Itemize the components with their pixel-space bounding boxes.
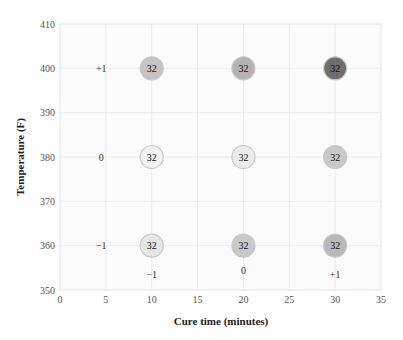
y-tick-label: 380 [40,152,55,163]
y-tick-label: 370 [40,196,55,207]
point-value-label: 32 [238,240,248,251]
x-tick-label: 0 [58,294,63,305]
point-value-label: 32 [147,63,157,74]
data-point: 32 [232,146,255,169]
x-tick-label: 30 [330,294,340,305]
y-axis-label: Temperature (F) [14,118,27,196]
y-tick-label: 390 [40,107,55,118]
level-code-label: 0 [99,152,104,163]
x-tick-label: 5 [103,294,108,305]
data-point: 32 [140,234,163,257]
point-value-label: 32 [147,152,157,163]
x-tick-label: 10 [147,294,157,305]
data-point: 32 [232,57,255,80]
x-tick-label: 15 [193,294,203,305]
point-value-label: 32 [147,240,157,251]
x-tick-label: 20 [238,294,248,305]
data-point: 32 [324,146,347,169]
x-tick-label: 35 [376,294,386,305]
data-point: 32 [324,234,347,257]
data-point: 32 [232,234,255,257]
level-code-label: −1 [146,269,157,280]
data-point: 32 [140,57,163,80]
x-tick-label: 25 [284,294,294,305]
point-value-label: 32 [330,152,340,163]
level-code-label: −1 [96,240,107,251]
x-axis-ticks: 05101520253035 [58,294,387,305]
point-value-label: 32 [330,240,340,251]
data-point: 32 [324,57,347,80]
point-value-label: 32 [238,152,248,163]
y-axis-ticks: 350360370380390400410 [40,19,55,296]
point-value-label: 32 [330,63,340,74]
level-code-label: +1 [96,63,107,74]
x-axis-label: Cure time (minutes) [174,315,269,328]
point-value-label: 32 [238,63,248,74]
y-tick-label: 410 [40,19,55,30]
data-point: 32 [140,146,163,169]
y-tick-label: 350 [40,285,55,296]
y-tick-label: 400 [40,63,55,74]
level-code-label: +1 [330,269,341,280]
scatter-chart: 350360370380390400410 05101520253035 +10… [0,0,403,340]
y-tick-label: 360 [40,240,55,251]
level-code-label: 0 [241,265,246,276]
